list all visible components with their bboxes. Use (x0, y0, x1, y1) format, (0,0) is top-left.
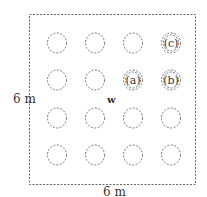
circle (48, 70, 67, 90)
labeled-circle: (b) (162, 70, 181, 90)
circle (48, 145, 67, 165)
circle (86, 33, 105, 53)
circle (124, 145, 143, 165)
center-label: w (106, 94, 116, 105)
circle (162, 108, 181, 128)
circle (86, 108, 105, 128)
labeled-circle: (a) (124, 70, 143, 90)
labeled-circle: (c) (162, 33, 181, 53)
circle (48, 108, 67, 128)
circle (124, 108, 143, 128)
circle-label: (b) (163, 74, 179, 87)
circle-label: (c) (164, 37, 179, 50)
circle (162, 145, 181, 165)
height-label: 6 m (13, 92, 36, 106)
circle (86, 145, 105, 165)
room-diagram: (c)(a)(b) 6 m 6 m w (0, 0, 207, 197)
circle (48, 33, 67, 53)
circle (86, 70, 105, 90)
circle (124, 33, 143, 53)
width-label: 6 m (103, 185, 126, 197)
circle-label: (a) (125, 74, 140, 87)
